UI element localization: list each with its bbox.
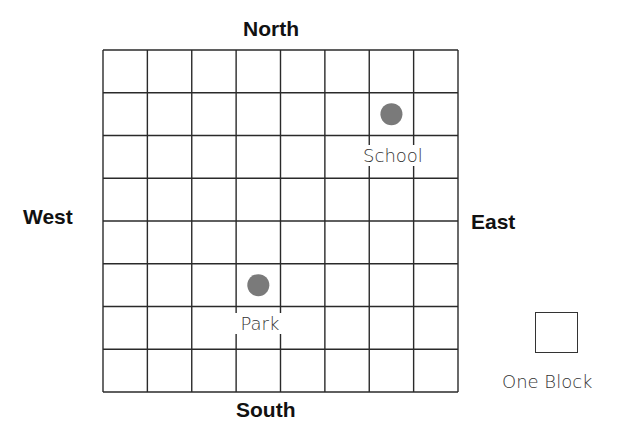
- grid-lines: [103, 50, 458, 392]
- landmark-dot-school: [380, 103, 402, 125]
- landmark-label-school: School: [350, 145, 436, 166]
- landmark-dot-park: [247, 274, 269, 296]
- legend-label: One Block: [502, 371, 593, 392]
- grid-map: [0, 0, 622, 425]
- legend-block-square: [535, 312, 578, 353]
- landmark-label-park: Park: [234, 313, 286, 334]
